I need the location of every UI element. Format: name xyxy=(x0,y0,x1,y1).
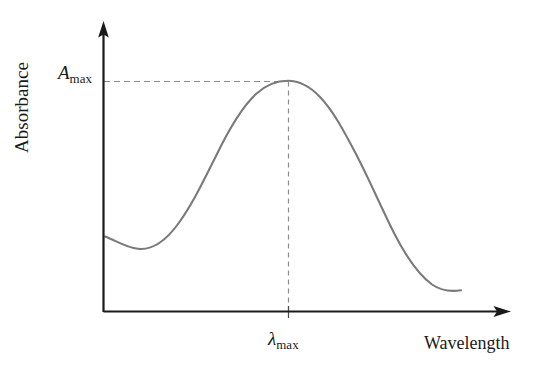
lambdamax-symbol: λ xyxy=(268,328,276,349)
lambdamax-subscript: max xyxy=(276,337,299,352)
plot-background xyxy=(0,0,550,369)
spectrum-figure: Absorbance Amax λmax Wavelength xyxy=(0,0,550,369)
amax-subscript: max xyxy=(70,71,93,86)
amax-symbol: A xyxy=(58,62,70,83)
amax-tick-label: Amax xyxy=(58,63,92,86)
x-axis-title: Wavelength xyxy=(424,334,510,352)
spectrum-plot-svg xyxy=(0,0,550,369)
lambdamax-tick-label: λmax xyxy=(268,329,299,352)
y-axis-title: Absorbance xyxy=(8,22,34,192)
y-axis-title-text: Absorbance xyxy=(12,62,31,153)
